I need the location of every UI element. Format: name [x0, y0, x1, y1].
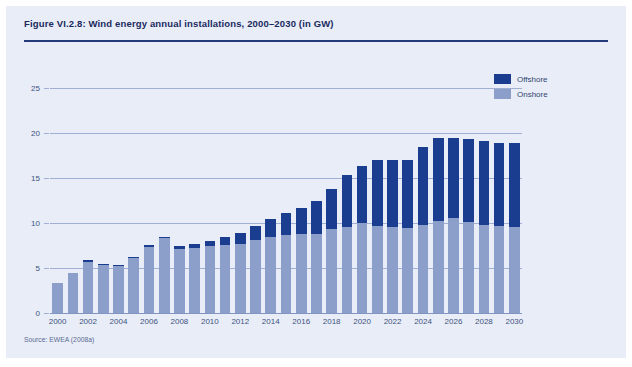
- legend-swatch-offshore: [494, 74, 511, 84]
- bar-2004[interactable]: [113, 265, 124, 313]
- bar-2024[interactable]: [418, 147, 429, 314]
- bar-segment-offshore-2011: [220, 237, 231, 245]
- bar-segment-onshore-2008: [174, 249, 185, 313]
- bar-segment-offshore-2027: [463, 139, 474, 222]
- bar-2009[interactable]: [189, 244, 200, 313]
- bar-segment-onshore-2025: [433, 221, 444, 313]
- bar-segment-onshore-2030: [509, 227, 520, 313]
- bar-2005[interactable]: [128, 257, 139, 313]
- bar-2016[interactable]: [296, 208, 307, 313]
- bar-2010[interactable]: [205, 241, 216, 313]
- y-axis-label-10: 10: [18, 219, 40, 228]
- gridline-25: [50, 88, 522, 89]
- bar-2014[interactable]: [265, 219, 276, 313]
- legend-item-offshore[interactable]: Offshore: [494, 74, 548, 84]
- bar-segment-offshore-2024: [418, 147, 429, 225]
- bar-segment-onshore-2005: [128, 258, 139, 313]
- y-axis-tick-15: [44, 178, 49, 179]
- gridline-0: [50, 313, 522, 314]
- bar-2026[interactable]: [448, 138, 459, 313]
- bar-2003[interactable]: [98, 264, 109, 313]
- bar-2001[interactable]: [68, 273, 79, 313]
- bar-segment-onshore-2023: [402, 228, 413, 314]
- bar-segment-onshore-2016: [296, 234, 307, 313]
- bar-segment-onshore-2026: [448, 218, 459, 313]
- y-axis-label-25: 25: [18, 84, 40, 93]
- bar-segment-offshore-2017: [311, 201, 322, 233]
- y-axis-tick-20: [44, 133, 49, 134]
- y-axis-tick-5: [44, 268, 49, 269]
- bar-2008[interactable]: [174, 246, 185, 313]
- bar-segment-onshore-2022: [387, 227, 398, 313]
- bar-segment-offshore-2030: [509, 143, 520, 227]
- bar-segment-onshore-2014: [265, 237, 276, 313]
- bar-segment-offshore-2012: [235, 233, 246, 244]
- bar-segment-offshore-2022: [387, 160, 398, 227]
- bar-2023[interactable]: [402, 160, 413, 313]
- bar-2018[interactable]: [326, 189, 337, 313]
- bar-segment-onshore-2017: [311, 234, 322, 313]
- y-axis-label-15: 15: [18, 174, 40, 183]
- bar-2000[interactable]: [52, 283, 63, 313]
- bar-2011[interactable]: [220, 237, 231, 314]
- bar-segment-offshore-2014: [265, 219, 276, 237]
- bar-segment-onshore-2006: [144, 247, 155, 313]
- bar-2013[interactable]: [250, 226, 261, 313]
- bar-segment-offshore-2020: [357, 166, 368, 223]
- bar-segment-onshore-2029: [494, 226, 505, 313]
- bar-segment-onshore-2013: [250, 240, 261, 313]
- bar-2012[interactable]: [235, 233, 246, 313]
- bar-segment-offshore-2013: [250, 226, 261, 240]
- bar-segment-onshore-2012: [235, 244, 246, 313]
- bar-2015[interactable]: [281, 213, 292, 313]
- y-axis-label-20: 20: [18, 129, 40, 138]
- y-axis-label-5: 5: [18, 264, 40, 273]
- bar-segment-onshore-2007: [159, 238, 170, 313]
- bar-2028[interactable]: [479, 141, 490, 313]
- source-note: Source: EWEA (2008a): [24, 336, 94, 343]
- bar-segment-onshore-2019: [342, 227, 353, 313]
- bar-segment-onshore-2011: [220, 245, 231, 313]
- chart-legend: OffshoreOnshore: [494, 74, 548, 104]
- bar-segment-onshore-2009: [189, 248, 200, 313]
- bar-2029[interactable]: [494, 143, 505, 313]
- y-axis-tick-0: [44, 313, 49, 314]
- bar-2022[interactable]: [387, 160, 398, 313]
- bar-2020[interactable]: [357, 166, 368, 313]
- bar-segment-offshore-2028: [479, 141, 490, 225]
- bar-2021[interactable]: [372, 160, 383, 313]
- bar-segment-onshore-2000: [52, 283, 63, 313]
- bar-segment-onshore-2002: [83, 262, 94, 313]
- bar-segment-onshore-2003: [98, 265, 109, 313]
- legend-label-offshore: Offshore: [517, 75, 548, 84]
- bar-segment-onshore-2004: [113, 266, 124, 313]
- bar-2017[interactable]: [311, 201, 322, 313]
- bar-segment-offshore-2025: [433, 138, 444, 222]
- bar-segment-offshore-2016: [296, 208, 307, 234]
- legend-item-onshore[interactable]: Onshore: [494, 89, 548, 99]
- bar-segment-offshore-2026: [448, 138, 459, 218]
- legend-label-onshore: Onshore: [517, 90, 548, 99]
- bar-2006[interactable]: [144, 245, 155, 313]
- bar-2019[interactable]: [342, 175, 353, 313]
- bar-2007[interactable]: [159, 237, 170, 314]
- bar-segment-offshore-2019: [342, 175, 353, 227]
- bar-segment-offshore-2015: [281, 213, 292, 235]
- bar-segment-offshore-2018: [326, 189, 337, 230]
- bar-2002[interactable]: [83, 260, 94, 313]
- gridline-20: [50, 133, 522, 134]
- bar-segment-onshore-2018: [326, 229, 337, 313]
- bar-segment-offshore-2029: [494, 143, 505, 226]
- bar-2027[interactable]: [463, 139, 474, 313]
- figure-panel: Figure VI.2.8: Wind energy annual instal…: [6, 6, 626, 358]
- y-axis-tick-25: [44, 88, 49, 89]
- bar-segment-offshore-2021: [372, 160, 383, 226]
- chart-plot-area: 0510152025200020022004200620082010201220…: [6, 6, 626, 358]
- bar-segment-onshore-2024: [418, 225, 429, 313]
- bar-segment-onshore-2001: [68, 273, 79, 313]
- bar-2025[interactable]: [433, 138, 444, 314]
- bar-segment-onshore-2015: [281, 235, 292, 313]
- bar-segment-offshore-2023: [402, 160, 413, 228]
- x-axis-label-2030: 2030: [494, 317, 534, 326]
- bar-2030[interactable]: [509, 143, 520, 313]
